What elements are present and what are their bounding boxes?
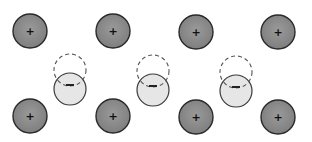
positive-ion: +	[96, 14, 130, 48]
displaced-charges	[54, 54, 252, 107]
plus-sign-icon: +	[191, 111, 200, 124]
plus-sign-icon: +	[108, 25, 117, 38]
positive-ion: +	[96, 99, 130, 133]
shifted-cloud-circle	[54, 73, 86, 105]
displaced-electron-cloud	[54, 54, 86, 105]
displaced-electron-cloud	[137, 55, 169, 106]
shifted-cloud-circle	[220, 75, 252, 107]
positive-ion: +	[179, 15, 213, 49]
minus-sign-icon	[66, 84, 74, 86]
plus-sign-icon: +	[273, 26, 282, 39]
plus-sign-icon: +	[273, 111, 282, 124]
positive-ion: +	[13, 99, 47, 133]
positive-ion: +	[179, 100, 213, 134]
shifted-cloud-circle	[137, 74, 169, 106]
plus-sign-icon: +	[25, 25, 34, 38]
minus-sign-icon	[232, 86, 240, 88]
positive-ion: +	[261, 100, 295, 134]
displaced-electron-cloud	[220, 56, 252, 107]
plus-sign-icon: +	[25, 110, 34, 123]
plus-sign-icon: +	[191, 26, 200, 39]
polarization-diagram: ++++++++	[0, 0, 312, 142]
minus-sign-icon	[149, 85, 157, 87]
plus-sign-icon: +	[108, 110, 117, 123]
positive-ion: +	[261, 15, 295, 49]
positive-ion: +	[13, 14, 47, 48]
